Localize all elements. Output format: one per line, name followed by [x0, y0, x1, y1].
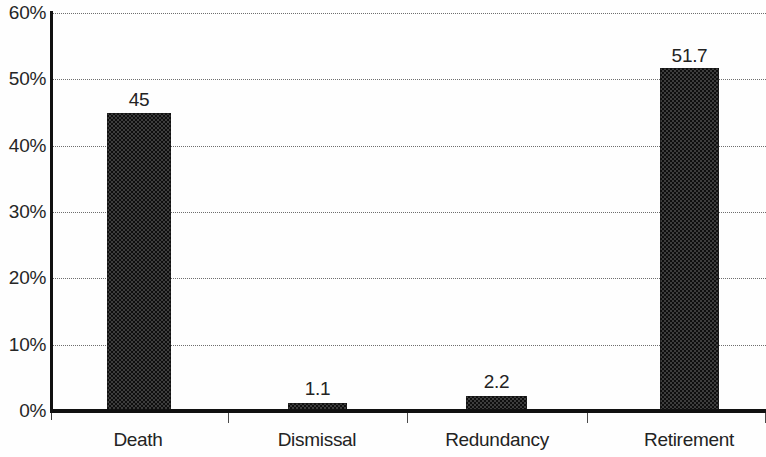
- x-label-dismissal: Dismissal: [267, 429, 367, 450]
- value-label-death: 45: [109, 90, 169, 109]
- bars-layer: [0, 13, 766, 411]
- bar-retirement[interactable]: [660, 68, 719, 411]
- bar-death[interactable]: [107, 113, 171, 411]
- x-label-redundancy: Redundancy: [437, 429, 557, 450]
- value-label-dismissal: 1.1: [288, 379, 347, 398]
- x-axis-line: [50, 409, 766, 413]
- x-tick-3: [587, 413, 588, 423]
- x-tick-2: [407, 413, 408, 423]
- y-axis-line: [50, 11, 53, 413]
- value-label-redundancy: 2.2: [466, 372, 527, 391]
- bar-chart: 60% 50% 40% 30% 20% 10% 0% 45 1.1 2.2 51…: [0, 0, 766, 457]
- x-label-retirement: Retirement: [629, 429, 749, 450]
- x-label-death: Death: [88, 429, 188, 450]
- x-tick-1: [228, 413, 229, 423]
- value-label-retirement: 51.7: [655, 46, 724, 65]
